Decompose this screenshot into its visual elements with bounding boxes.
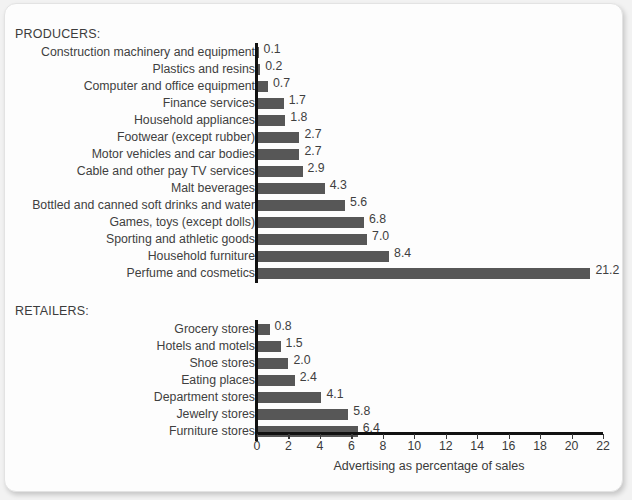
bar-container [257,183,325,194]
value-bar [257,81,268,92]
value-bar [257,324,270,335]
category-label: Sporting and athletic goods [106,232,255,246]
bar-value-label: 6.8 [369,212,386,226]
category-label: Plastics and resins [152,62,255,76]
bar-value-label: 2.0 [293,353,310,367]
chart-row: Construction machinery and equipment0.1 [5,44,622,61]
chart-row: Grocery stores0.8 [5,321,622,338]
category-label: Construction machinery and equipment [41,45,255,59]
bar-container [257,324,270,335]
category-label: Cable and other pay TV services [77,164,255,178]
x-axis-tick-label: 20 [565,439,579,453]
bar-container [257,166,303,177]
category-label: Department stores [154,390,255,404]
bar-value-label: 8.4 [394,246,411,260]
value-bar [257,217,364,228]
value-bar [257,166,303,177]
section-heading-1: PRODUCERS: [15,27,100,41]
value-bar [257,358,288,369]
value-bar [257,251,389,262]
bar-value-label: 4.3 [330,178,347,192]
value-bar [257,132,299,143]
bar-value-label: 2.7 [304,127,321,141]
bar-value-label: 5.6 [350,195,367,209]
bar-container [257,375,295,386]
chart-row: Household furniture8.4 [5,248,622,265]
category-label: Household furniture [148,249,255,263]
category-label: Shoe stores [189,356,255,370]
bar-value-label: 0.1 [264,42,281,56]
bar-value-label: 1.7 [289,93,306,107]
chart-row: Hotels and motels1.5 [5,338,622,355]
bar-container [257,234,367,245]
x-axis-tick-label: 16 [502,439,516,453]
category-label: Hotels and motels [157,339,255,353]
chart-row: Finance services1.7 [5,95,622,112]
value-bar [257,183,325,194]
category-label: Footwear (except rubber) [117,130,255,144]
category-label: Games, toys (except dolls) [109,215,255,229]
chart-row: Plastics and resins0.2 [5,61,622,78]
bar-value-label: 21.2 [595,263,619,277]
value-bar [257,341,281,352]
category-label: Perfume and cosmetics [127,266,256,280]
y-axis-line-2 [255,320,258,441]
value-bar [257,149,299,160]
category-label: Malt beverages [171,181,255,195]
bar-value-label: 4.1 [326,387,343,401]
value-bar [257,268,590,279]
chart-row: Perfume and cosmetics21.2 [5,265,622,282]
chart-card: PRODUCERS:Construction machinery and equ… [4,3,623,492]
bar-container [257,341,281,352]
bar-container [257,217,364,228]
bar-container [257,98,284,109]
value-bar [257,234,367,245]
bar-value-label: 2.4 [300,370,317,384]
chart-page: PRODUCERS:Construction machinery and equ… [0,0,632,500]
value-bar [257,392,321,403]
bar-container [257,268,590,279]
chart-row: Cable and other pay TV services2.9 [5,163,622,180]
bar-value-label: 0.2 [265,59,282,73]
chart-row: Sporting and athletic goods7.0 [5,231,622,248]
x-axis-tick-label: 4 [316,439,323,453]
bar-container [257,149,299,160]
x-axis-tick-label: 22 [596,439,610,453]
bar-container [257,132,299,143]
bar-value-label: 7.0 [372,229,389,243]
bar-container [257,392,321,403]
chart-row: Department stores4.1 [5,389,622,406]
category-label: Eating places [181,373,255,387]
bar-chart-plot: PRODUCERS:Construction machinery and equ… [5,4,622,491]
bar-value-label: 0.7 [273,76,290,90]
chart-row: Malt beverages4.3 [5,180,622,197]
category-label: Grocery stores [174,322,255,336]
bar-container [257,200,345,211]
x-axis-line [255,432,603,435]
x-axis-tick-label: 2 [285,439,292,453]
bar-container [257,251,389,262]
value-bar [257,409,348,420]
bar-value-label: 1.8 [290,110,307,124]
x-axis-tick-label: 10 [407,439,421,453]
bar-container [257,358,288,369]
chart-row: Games, toys (except dolls)6.8 [5,214,622,231]
value-bar [257,200,345,211]
value-bar [257,98,284,109]
section-heading-2: RETAILERS: [15,304,89,318]
value-bar [257,375,295,386]
x-axis-title: Advertising as percentage of sales [255,459,603,473]
category-label: Bottled and canned soft drinks and water [32,198,255,212]
bar-container [257,81,268,92]
chart-row: Jewelry stores5.8 [5,406,622,423]
value-bar [257,115,285,126]
category-label: Household appliances [134,113,255,127]
bar-value-label: 2.9 [308,161,325,175]
bar-value-label: 2.7 [304,144,321,158]
bar-container [257,409,348,420]
x-axis-tick-label: 8 [379,439,386,453]
x-axis-tick-label: 0 [254,439,261,453]
x-axis-tick-label: 6 [348,439,355,453]
category-label: Computer and office equipment [84,79,255,93]
x-axis-tick-label: 12 [439,439,453,453]
